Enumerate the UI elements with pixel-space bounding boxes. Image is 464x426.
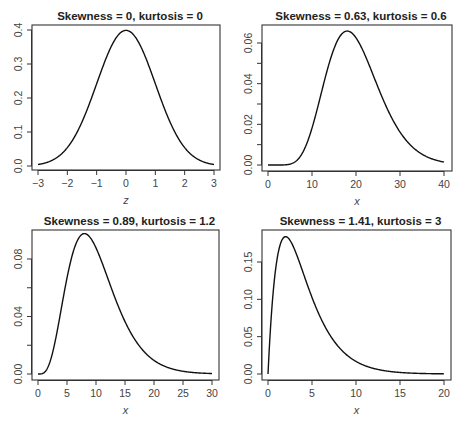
x-axis-label: z (122, 194, 129, 206)
panel-title: Skewness = 0, kurtosis = 0 (57, 10, 203, 22)
x-tick-label: −1 (91, 177, 103, 189)
x-tick-label: 10 (306, 178, 318, 190)
y-tick-label: 0.00 (242, 364, 254, 385)
x-axis: 05101520 (265, 380, 450, 399)
x-tick-label: 40 (438, 178, 450, 190)
panel-1: −3−2−101230.00.10.20.30.4Skewness = 0, k… (12, 10, 220, 206)
panel-2: 0102030400.000.020.040.06Skewness = 0.63… (242, 10, 452, 207)
density-curve (268, 237, 444, 374)
x-axis-label: x (353, 195, 360, 207)
x-axis-label: x (122, 404, 129, 416)
x-tick-label: −3 (32, 177, 44, 189)
figure-four-distributions: −3−2−101230.00.10.20.30.4Skewness = 0, k… (0, 0, 464, 426)
y-tick-label: 0.3 (12, 57, 24, 72)
x-tick-label: −2 (61, 177, 73, 189)
x-tick-label: 30 (206, 387, 218, 399)
x-tick-label: 0 (265, 178, 271, 190)
x-tick-label: 15 (394, 387, 406, 399)
x-tick-label: 5 (64, 387, 70, 399)
y-tick-label: 0.1 (12, 125, 24, 140)
y-tick-label: 0.05 (242, 326, 254, 347)
density-curve (38, 234, 212, 374)
panel-3: 0510152025300.000.040.08Skewness = 0.89,… (12, 215, 219, 416)
x-tick-label: 15 (119, 387, 131, 399)
plot-frame (32, 25, 220, 170)
plot-frame (262, 230, 451, 380)
x-axis: −3−2−10123 (32, 170, 217, 189)
x-tick-label: 10 (90, 387, 102, 399)
y-axis: 0.00.10.20.30.4 (12, 23, 32, 174)
density-curve (38, 30, 214, 164)
y-tick-label: 0.00 (242, 155, 254, 176)
panel-title: Skewness = 0.89, kurtosis = 1.2 (44, 215, 215, 227)
y-tick-label: 0.06 (242, 33, 254, 54)
density-curve (268, 31, 444, 165)
x-tick-label: 2 (182, 177, 188, 189)
x-axis-label: x (353, 404, 360, 416)
x-tick-label: 0 (35, 387, 41, 399)
x-tick-label: 5 (309, 387, 315, 399)
y-tick-label: 0.4 (12, 23, 24, 38)
y-tick-label: 0.00 (12, 364, 24, 385)
x-tick-label: 10 (350, 387, 362, 399)
y-tick-label: 0.15 (242, 252, 254, 273)
y-axis: 0.000.040.08 (12, 249, 32, 385)
y-tick-label: 0.10 (242, 289, 254, 310)
x-tick-label: 1 (152, 177, 158, 189)
x-tick-label: 20 (148, 387, 160, 399)
plot-frame (32, 230, 219, 380)
x-tick-label: 25 (177, 387, 189, 399)
y-tick-label: 0.02 (242, 114, 254, 135)
x-tick-label: 20 (350, 178, 362, 190)
plot-frame (262, 25, 452, 171)
y-tick-label: 0.2 (12, 91, 24, 106)
x-tick-label: 3 (211, 177, 217, 189)
y-axis: 0.000.020.040.06 (242, 33, 262, 176)
y-tick-label: 0.04 (242, 73, 254, 94)
x-tick-label: 0 (265, 387, 271, 399)
y-tick-label: 0.0 (12, 159, 24, 174)
x-tick-label: 20 (438, 387, 450, 399)
y-tick-label: 0.08 (12, 249, 24, 270)
panel-4: 051015200.000.050.100.15Skewness = 1.41,… (242, 215, 451, 416)
panel-title: Skewness = 1.41, kurtosis = 3 (280, 215, 442, 227)
x-tick-label: 30 (394, 178, 406, 190)
y-tick-label: 0.04 (12, 306, 24, 327)
x-axis: 051015202530 (35, 380, 218, 399)
y-axis: 0.000.050.100.15 (242, 252, 262, 385)
panel-title: Skewness = 0.63, kurtosis = 0.6 (275, 10, 446, 22)
x-axis: 010203040 (265, 171, 450, 190)
x-tick-label: 0 (123, 177, 129, 189)
